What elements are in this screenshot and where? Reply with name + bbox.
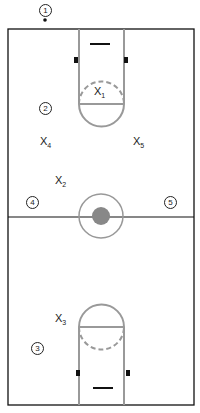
offense-player-4: 4	[26, 196, 39, 209]
ball	[43, 18, 47, 22]
defender-x3: X3	[55, 313, 66, 326]
offense-player-1: 1	[39, 4, 52, 17]
offense-player-3: 3	[31, 342, 44, 355]
top-block-right	[124, 57, 128, 63]
offense-player-2: 2	[39, 102, 52, 115]
bottom-block-left	[76, 370, 80, 376]
defender-x4: X4	[40, 136, 51, 149]
defender-x5: X5	[133, 136, 144, 149]
defender-x1: X1	[94, 86, 105, 99]
bottom-block-right	[126, 370, 130, 376]
bottom-key	[79, 305, 124, 406]
defender-x2: X2	[55, 175, 66, 188]
top-block-left	[74, 57, 78, 63]
offense-player-5: 5	[164, 196, 177, 209]
center-dot	[92, 207, 110, 225]
